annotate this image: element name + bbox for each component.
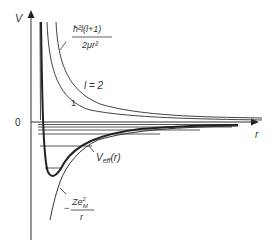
- centrifugal-leader: [60, 42, 66, 50]
- effective-potential-diagram: V 0 r ħ²l(l+1) 2μr² l = 2 1 Veff(r) − Ze…: [0, 0, 274, 240]
- coulomb-numerator: Ze2M: [71, 196, 88, 209]
- l1-label: 1: [71, 98, 76, 108]
- veff-label: Veff(r): [96, 152, 120, 164]
- centrifugal-label-numerator: ħ²l(l+1): [73, 24, 101, 34]
- coulomb-leader: [60, 188, 66, 194]
- centrifugal-curve-l2: [56, 22, 262, 118]
- coulomb-minus: −: [64, 203, 69, 213]
- origin-label: 0: [15, 117, 21, 128]
- v-axis-label: V: [15, 12, 24, 24]
- centrifugal-label-denominator: 2μr²: [81, 40, 99, 50]
- v-axis-arrow-icon: [28, 10, 35, 18]
- r-axis-label: r: [255, 129, 259, 140]
- l2-label: l = 2: [84, 80, 104, 91]
- coulomb-denominator: r: [80, 212, 84, 222]
- energy-levels: [38, 125, 235, 169]
